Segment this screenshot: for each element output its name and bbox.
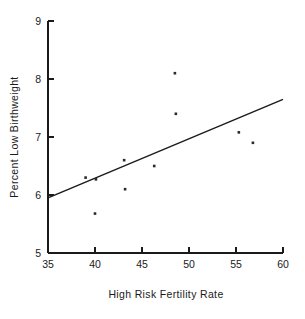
data-point bbox=[94, 212, 97, 215]
x-tick-label-55: 55 bbox=[230, 258, 242, 270]
y-tick-label-8: 8 bbox=[35, 73, 41, 85]
x-tick-label-40: 40 bbox=[89, 258, 101, 270]
x-tick-label-60: 60 bbox=[277, 258, 289, 270]
chart-figure: 9 8 7 6 5 35 40 45 50 55 60 High Risk Fe… bbox=[0, 0, 305, 319]
data-points-group bbox=[84, 72, 254, 215]
scatter-plot-svg: 9 8 7 6 5 35 40 45 50 55 60 High Risk Fe… bbox=[0, 0, 305, 319]
data-point bbox=[252, 142, 255, 145]
y-axis-ticks bbox=[48, 21, 54, 253]
x-tick-label-50: 50 bbox=[183, 258, 195, 270]
data-point bbox=[95, 178, 98, 181]
y-axis-title: Percent Low Birthweight bbox=[8, 76, 20, 197]
x-axis-title: High Risk Fertility Rate bbox=[108, 288, 223, 300]
y-tick-label-7: 7 bbox=[35, 131, 41, 143]
data-point bbox=[123, 159, 126, 162]
y-tick-label-5: 5 bbox=[35, 247, 41, 259]
data-point bbox=[174, 72, 177, 75]
x-tick-label-35: 35 bbox=[42, 258, 54, 270]
data-point bbox=[175, 113, 178, 116]
data-point bbox=[238, 131, 241, 134]
y-tick-label-9: 9 bbox=[35, 15, 41, 27]
data-point bbox=[153, 165, 156, 168]
x-axis-ticks bbox=[48, 247, 283, 253]
data-point bbox=[84, 176, 87, 179]
x-tick-label-45: 45 bbox=[136, 258, 148, 270]
regression-line bbox=[48, 99, 283, 198]
y-tick-label-6: 6 bbox=[35, 189, 41, 201]
data-point bbox=[124, 188, 127, 191]
